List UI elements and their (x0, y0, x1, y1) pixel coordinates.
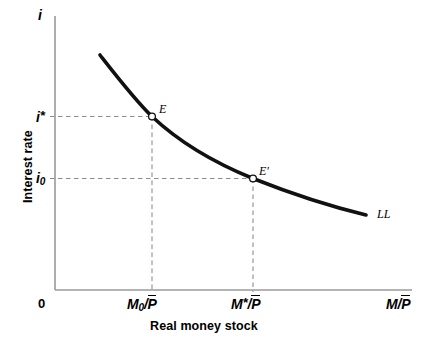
x-axis-title: Real money stock (150, 320, 258, 333)
axes-group (55, 16, 412, 290)
x-tick-m-zero-denominator: P (148, 296, 157, 311)
y-axis-title: Interest rate (22, 130, 35, 203)
ll-curve (100, 55, 366, 215)
point-label-e-text: E (159, 102, 166, 116)
y-tick-label-i-star: i* (36, 109, 45, 124)
point-marker-e-prime (250, 175, 257, 182)
curve-label-ll: LL (377, 208, 390, 220)
money-market-ll-curve-chart: i Interest rate i* i0 E E′ LL 0 M0/P M*/… (0, 0, 427, 340)
point-label-e: E (159, 103, 166, 115)
y-axis-variable-label: i (38, 8, 42, 22)
x-tick-m-star-base: M (231, 296, 242, 312)
point-label-e-prime-text: E′ (259, 164, 269, 178)
y-axis-variable-text: i (38, 7, 42, 23)
x-tick-m-star-denominator: P (251, 296, 260, 311)
x-tick-label-m-star-over-p: M*/P (231, 296, 260, 311)
x-tick-label-m-zero-over-p: M0/P (127, 296, 157, 313)
x-axis-title-text: Real money stock (150, 319, 258, 333)
y-tick-i-zero-subscript: 0 (40, 176, 45, 187)
curve-label-ll-text: LL (377, 207, 390, 221)
point-marker-e (149, 113, 156, 120)
guides-point-e-prime (50, 179, 253, 293)
x-tick-m-zero-base: M (127, 296, 138, 312)
guides-point-e (50, 117, 152, 293)
x-axis-variable-denominator: P (401, 296, 410, 311)
y-tick-label-i-zero: i0 (36, 171, 45, 187)
y-tick-i-star-superscript: * (40, 108, 45, 123)
y-axis-title-text: Interest rate (21, 130, 35, 203)
x-axis-variable-label: M/P (386, 296, 410, 311)
x-axis-variable-numerator: M (386, 296, 397, 312)
origin-label-text: 0 (38, 296, 45, 311)
point-label-e-prime: E′ (259, 165, 269, 177)
origin-label: 0 (38, 297, 45, 310)
chart-canvas (0, 0, 427, 340)
